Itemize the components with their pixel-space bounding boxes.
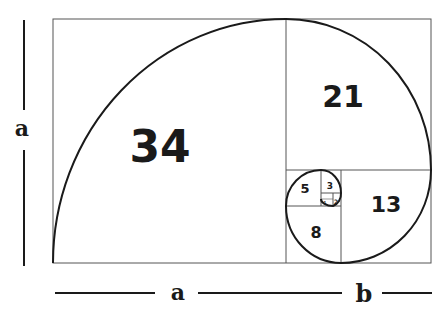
dimension-lines [24, 20, 432, 293]
square-label-3: 3 [327, 181, 333, 191]
square-label-5: 5 [300, 181, 309, 196]
square-label-2: 2 [334, 198, 338, 205]
dimension-label-left-a: a [15, 115, 29, 141]
outer-rectangle [53, 19, 431, 263]
square-label-13: 13 [371, 192, 402, 217]
square-label-34: 34 [129, 121, 190, 172]
square-label-8: 8 [310, 223, 321, 242]
fibonacci-diagram: 34 21 13 8 5 3 2 1 a a b [0, 0, 445, 319]
dimension-label-bottom-b: b [356, 279, 373, 308]
dimension-label-bottom-a: a [171, 279, 185, 305]
golden-spiral [53, 19, 431, 263]
square-grid [53, 19, 431, 263]
square-label-21: 21 [322, 79, 364, 114]
square-label-1: 1 [324, 200, 327, 205]
